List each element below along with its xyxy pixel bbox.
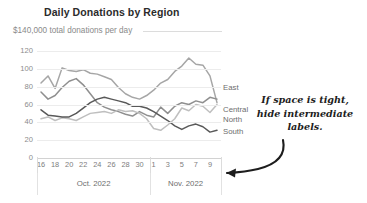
subtitle-rule [143,31,222,32]
annotation-line-2: hide intermediate [257,108,353,119]
series-line-east [41,58,217,103]
y-axis-tick-label: 40 [3,118,33,126]
x-axis-tick-label: 30 [135,161,143,168]
annotation-line-1: If space is tight, [261,94,348,105]
x-axis-tick-label: 28 [121,161,129,168]
gridline [37,51,221,52]
x-axis-tick-label: 22 [79,161,87,168]
y-axis: 020406080100120 [0,42,33,158]
series-label-central: Central [223,106,248,114]
x-axis-tick-label: 16 [37,161,45,168]
y-axis-tick-label: 80 [3,83,33,91]
x-axis-tick-label: 24 [93,161,101,168]
x-axis-tick-label: 20 [65,161,73,168]
plot-area [37,42,221,158]
y-axis-tick-label: 100 [3,65,33,73]
series-label-north: North [223,116,242,124]
y-axis-tick-label: 20 [3,136,33,144]
x-axis-tick-label: 5 [180,161,184,168]
x-axis-tick-label: 1 [152,161,156,168]
gridline [37,140,221,141]
gridline [37,69,221,70]
month-group-divider [150,173,151,195]
x-axis: 161820222426283013579 [37,161,221,173]
series-label-south: South [223,128,243,136]
chart-container: Daily Donations by Region $140,000 total… [0,0,367,203]
annotation-arrow [210,138,330,188]
month-group-label: Oct. 2022 [77,179,111,188]
y-axis-tick-label: 120 [3,47,33,55]
x-axis-tick-label: 3 [166,161,170,168]
x-axis-tick-label: 26 [107,161,115,168]
month-group-label: Nov. 2022 [168,179,203,188]
gridline [37,87,221,88]
x-axis-tick-label: 7 [194,161,198,168]
x-axis-tick-label: 18 [51,161,59,168]
y-axis-tick-label: 0 [3,154,33,162]
x-axis-baseline [37,158,221,159]
annotation-text: If space is tight, hide intermediate lab… [246,93,364,134]
chart-title: Daily Donations by Region [44,6,180,18]
gridline [37,122,221,123]
chart-subtitle: $140,000 total donations per day [13,26,132,35]
gridline [37,105,221,106]
month-group-divider [37,173,38,195]
month-band: Oct. 2022Nov. 2022 [37,177,221,197]
y-axis-tick-label: 60 [3,101,33,109]
annotation-line-3: labels. [287,121,322,132]
series-label-east: East [223,84,239,92]
